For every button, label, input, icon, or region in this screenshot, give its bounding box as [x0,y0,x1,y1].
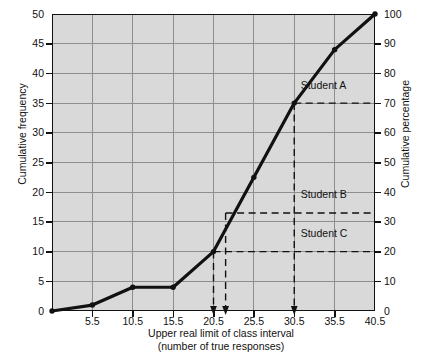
y-axis-left-tick [46,251,52,253]
y-axis-right-label: 20 [384,246,422,256]
y-axis-right-title: Cumulative percentage [399,59,411,209]
y-axis-right-tick [375,221,381,223]
x-axis-title-sub: (number of true responses) [61,340,381,353]
y-axis-left-label: 50 [4,9,44,19]
y-axis-left-tick [46,132,52,134]
x-axis-label: 15.5 [153,316,193,327]
grid-line-horizontal [53,103,374,104]
y-axis-right-tick [375,73,381,75]
y-axis-left-tick [46,73,52,75]
y-axis-left-label: 45 [4,38,44,48]
y-axis-left-label: 5 [4,276,44,286]
y-axis-left-tick [46,281,52,283]
y-axis-right-label: 10 [384,276,422,286]
x-axis-label: 25.5 [234,316,274,327]
y-axis-left-tick [46,43,52,45]
y-axis-right-label: 30 [384,216,422,226]
annotation-label-student-c: Student C [301,228,348,239]
chart-figure: 0510152025303540455001020304050607080901… [0,0,422,363]
grid-line-horizontal [53,43,374,44]
y-axis-right-tick [375,251,381,253]
x-axis-title: Upper real limit of class interval (numb… [61,327,381,353]
y-axis-right-label: 0 [384,306,422,316]
x-axis-label: 40.5 [355,316,395,327]
annotation-label-student-a: Student A [301,80,347,91]
y-axis-right-label: 100 [384,9,422,19]
x-axis-label: 5.5 [72,316,112,327]
grid-line-horizontal [53,221,374,222]
y-axis-right-tick [375,132,381,134]
grid-line-horizontal [53,132,374,133]
x-axis-label: 10.5 [113,316,153,327]
y-axis-right-tick [375,103,381,105]
y-axis-left-title: Cumulative frequency [16,64,28,204]
plot-area [52,14,375,311]
y-axis-right-tick [375,281,381,283]
y-axis-right-tick [375,162,381,164]
x-axis-label: 20.5 [194,316,234,327]
y-axis-left-tick [46,103,52,105]
y-axis-left-label: 0 [4,306,44,316]
x-axis-label: 30.5 [274,316,314,327]
x-axis-title-main: Upper real limit of class interval [61,327,381,340]
grid-line-horizontal [53,251,374,252]
y-axis-right-label: 90 [384,38,422,48]
annotation-label-student-b: Student B [301,189,347,200]
y-axis-left-label: 10 [4,246,44,256]
y-axis-left-label: 15 [4,216,44,226]
y-axis-left-tick [46,192,52,194]
y-axis-left-tick [46,162,52,164]
y-axis-right-tick [375,192,381,194]
grid-line-horizontal [53,162,374,163]
grid-line-horizontal [53,73,374,74]
y-axis-left-tick [46,221,52,223]
y-axis-right-tick [375,43,381,45]
grid-line-horizontal [53,281,374,282]
x-axis-label: 35.5 [315,316,355,327]
